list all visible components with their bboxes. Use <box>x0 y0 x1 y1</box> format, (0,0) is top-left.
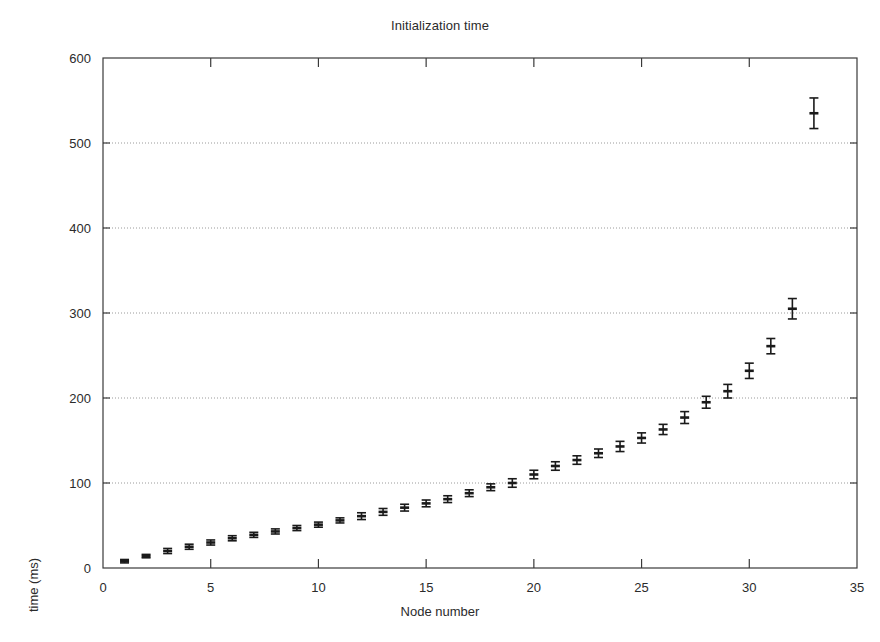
x-tick-label: 15 <box>419 580 433 595</box>
y-tick-label: 500 <box>69 136 91 151</box>
figure-caption <box>0 630 880 642</box>
data-point <box>680 412 689 424</box>
data-point <box>745 363 754 378</box>
data-point <box>185 544 194 549</box>
data-point <box>486 484 495 491</box>
y-tick-label: 100 <box>69 476 91 491</box>
y-tick-label: 300 <box>69 306 91 321</box>
figure-container: Initialization time time (ms) 0100200300… <box>0 0 880 642</box>
x-tick-label: 5 <box>207 580 214 595</box>
data-point <box>163 548 172 553</box>
data-point <box>249 532 258 537</box>
data-point <box>766 339 775 354</box>
data-point <box>228 536 237 541</box>
data-point <box>271 529 280 534</box>
y-tick-label: 200 <box>69 391 91 406</box>
plot-frame <box>103 58 857 568</box>
data-point <box>357 513 366 520</box>
x-tick-label: 20 <box>527 580 541 595</box>
x-tick-label: 10 <box>311 580 325 595</box>
data-point <box>551 462 560 471</box>
scatter-plot: 010020030040050060005101520253035 <box>0 0 880 642</box>
data-point <box>637 433 646 443</box>
data-point <box>206 540 215 545</box>
x-tick-label: 25 <box>634 580 648 595</box>
data-point <box>788 299 797 319</box>
data-point <box>335 518 344 523</box>
data-point <box>659 424 668 434</box>
data-point <box>292 526 301 531</box>
data-point <box>809 98 818 129</box>
data-point <box>142 554 151 557</box>
data-point <box>379 509 388 516</box>
data-point <box>616 441 625 451</box>
data-point <box>572 456 581 465</box>
data-point <box>723 384 732 398</box>
x-tick-label: 35 <box>850 580 864 595</box>
data-series <box>120 98 818 563</box>
data-point <box>443 496 452 503</box>
y-tick-label: 600 <box>69 51 91 66</box>
y-tick-label: 400 <box>69 221 91 236</box>
data-point <box>120 560 129 563</box>
data-point <box>314 522 323 527</box>
x-tick-label: 30 <box>742 580 756 595</box>
data-point <box>465 490 474 497</box>
x-axis-label: Node number <box>0 604 880 619</box>
x-tick-label: 0 <box>99 580 106 595</box>
data-point <box>400 504 409 511</box>
data-point <box>594 449 603 458</box>
data-point <box>529 470 538 479</box>
data-point <box>422 500 431 507</box>
y-tick-label: 0 <box>84 561 91 576</box>
data-point <box>508 479 517 488</box>
